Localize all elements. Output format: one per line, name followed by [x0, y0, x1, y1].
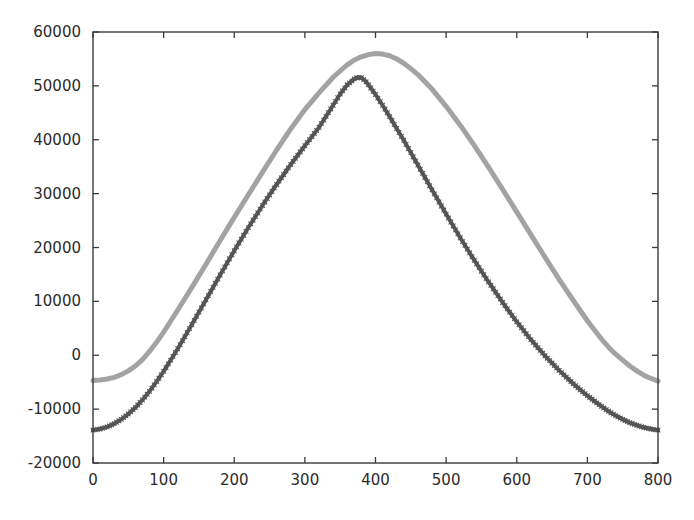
series-line-lower-series	[93, 77, 658, 430]
y-tick-label: 40000	[33, 131, 81, 149]
y-tick-label: 50000	[33, 77, 81, 95]
series-line-upper-series	[93, 54, 658, 382]
series-layer	[91, 54, 661, 433]
x-tick-label: 200	[220, 471, 249, 489]
x-tick-label: 300	[291, 471, 320, 489]
x-tick-label: 500	[432, 471, 461, 489]
y-tick-label: 20000	[33, 239, 81, 257]
y-tick-label: -20000	[28, 454, 81, 472]
y-tick-label: 30000	[33, 185, 81, 203]
line-chart-plot: 0100200300400500600700800-20000-10000010…	[0, 0, 694, 520]
series-markers-lower-series	[91, 75, 661, 432]
x-tick-label: 100	[149, 471, 178, 489]
x-tick-label: 800	[644, 471, 673, 489]
x-tick-label: 700	[573, 471, 602, 489]
x-tick-label: 400	[361, 471, 390, 489]
chart-figure: 0100200300400500600700800-20000-10000010…	[0, 0, 694, 520]
y-tick-label: 10000	[33, 292, 81, 310]
y-tick-label: -10000	[28, 400, 81, 418]
x-tick-label: 600	[502, 471, 531, 489]
x-tick-label: 0	[88, 471, 98, 489]
y-tick-label: 0	[71, 346, 81, 364]
y-tick-label: 60000	[33, 23, 81, 41]
